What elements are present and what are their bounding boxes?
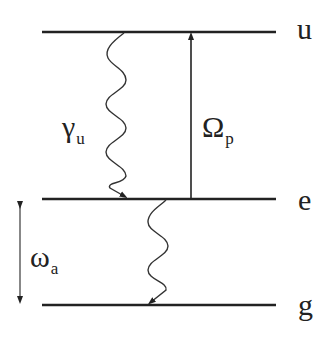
level-label-g: g xyxy=(298,290,313,320)
decay-rate-label: γu xyxy=(62,112,85,142)
pump-rabi-symbol: Ω xyxy=(202,110,224,143)
transition-frequency-subscript: a xyxy=(51,259,59,278)
pump-rabi-label: Ωp xyxy=(202,112,234,142)
decay-rate-symbol: γ xyxy=(62,110,75,143)
wavy-decay-arrow-e-g-icon xyxy=(148,200,168,302)
wavy-decay-arrow-u-e-icon xyxy=(106,33,126,196)
pump-rabi-subscript: p xyxy=(225,129,234,148)
energy-level-diagram xyxy=(0,0,329,341)
transition-frequency-symbol: ω xyxy=(30,240,50,273)
decay-rate-subscript: u xyxy=(76,129,85,148)
level-label-e: e xyxy=(298,185,311,215)
level-label-u: u xyxy=(297,14,312,44)
transition-frequency-label: ωa xyxy=(30,242,58,272)
